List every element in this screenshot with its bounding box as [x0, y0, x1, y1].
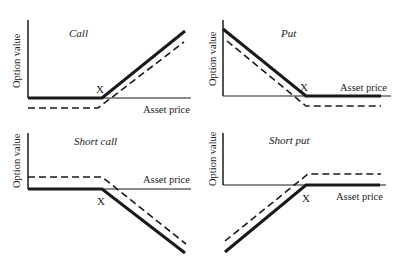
- option-payoff-diagrams: Call X Asset price Option value Put X As…: [0, 0, 403, 269]
- strike-label: X: [97, 195, 105, 207]
- panel-title: Put: [280, 27, 297, 39]
- panel-short-put: Short put X Asset price Option value: [207, 131, 386, 252]
- strike-label: X: [96, 83, 104, 95]
- y-axis-label: Option value: [11, 33, 22, 88]
- strike-label: X: [302, 192, 310, 204]
- panel-title: Short call: [74, 135, 117, 147]
- strike-label: X: [300, 81, 308, 93]
- panel-short-call: Short call X Asset price Option value: [11, 133, 191, 253]
- x-axis-label: Asset price: [340, 82, 387, 93]
- panel-title: Short put: [269, 134, 311, 146]
- payoff-line: [28, 31, 185, 98]
- y-axis-label: Option value: [11, 133, 22, 188]
- panel-put: Put X Asset price Option value: [207, 20, 391, 106]
- y-axis-label: Option value: [207, 31, 218, 86]
- payoff-line: [28, 189, 185, 253]
- y-axis-label: Option value: [207, 131, 218, 186]
- x-axis-label: Asset price: [143, 104, 190, 115]
- x-axis-label: Asset price: [143, 174, 190, 185]
- panel-title: Call: [69, 27, 88, 39]
- panel-call: Call X Asset price Option value: [11, 20, 191, 115]
- x-axis-label: Asset price: [336, 191, 383, 202]
